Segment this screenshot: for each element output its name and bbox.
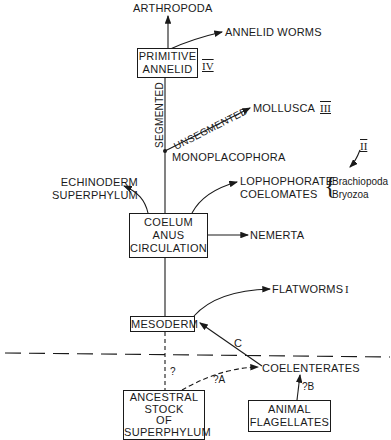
node-ancestral-stock: ANCESTRAL STOCK OF SUPERPHYLUM — [123, 390, 205, 440]
echinoderm-line-1: ECHINODERM — [52, 176, 138, 189]
node-coelenterates: COELENTERATES — [262, 362, 360, 375]
node-monoplacophora: MONOPLACOPHORA — [172, 151, 285, 164]
mesoderm-label: MESODERM — [131, 318, 194, 331]
node-mesoderm: MESODERM — [130, 316, 195, 332]
member-bryozoa: Bryozoa — [332, 188, 388, 201]
node-echinoderm-superphylum: ECHINODERM SUPERPHYLUM — [52, 176, 138, 202]
node-animal-flagellates: ANIMAL FLAGELLATES — [248, 400, 331, 432]
ancestral-line-3: OF — [124, 415, 204, 427]
group-numeral-i: I — [345, 283, 349, 295]
ancestral-line-4: SUPERPHYLUM — [124, 427, 204, 439]
node-mollusca: MOLLUSCA — [253, 102, 315, 115]
primitive-annelid-line-1: PRIMITIVE — [138, 50, 197, 63]
echinoderm-line-2: SUPERPHYLUM — [52, 189, 138, 202]
edge-label-segmented: SEGMENTED — [154, 82, 165, 148]
ancestral-line-1: ANCESTRAL — [124, 392, 204, 404]
node-coelum-anus-circulation: COELUM ANUS CIRCULATION — [129, 213, 208, 258]
node-primitive-annelid: PRIMITIVE ANNELID — [137, 48, 198, 78]
flagellates-line-2: FLAGELLATES — [249, 416, 330, 429]
lophophorate-members: Brachiopoda Bryozoa — [332, 175, 388, 201]
edge-label-question-b: ?B — [302, 380, 314, 393]
node-flatworms: FLATWORMS — [272, 283, 343, 296]
edge-label-question-a: ?A — [213, 373, 225, 386]
flagellates-line-1: ANIMAL — [249, 403, 330, 416]
edge-label-question-ancestral: ? — [170, 365, 176, 378]
monoplacophora-node-dot — [163, 149, 167, 153]
coelum-line-2: ANUS — [130, 229, 207, 242]
group-numeral-iii: III — [320, 102, 331, 114]
coelum-line-3: CIRCULATION — [130, 242, 207, 255]
edge-label-c: C — [234, 337, 242, 350]
primitive-annelid-line-2: ANNELID — [138, 63, 197, 76]
lophophorate-line-2: COELOMATES — [240, 188, 333, 201]
node-annelid-worms: ANNELID WORMS — [225, 26, 322, 39]
node-nemerta: NEMERTA — [250, 229, 304, 242]
node-arthropoda: ARTHROPODA — [133, 2, 212, 15]
group-numeral-iv: IV — [202, 60, 214, 72]
group-numeral-ii: II — [360, 140, 367, 152]
lophophorate-line-1: LOPHOPHORATE — [240, 175, 333, 188]
member-brachiopoda: Brachiopoda — [332, 175, 388, 188]
node-lophophorate-coelomates: LOPHOPHORATE COELOMATES — [240, 175, 333, 201]
coelum-line-1: COELUM — [130, 216, 207, 229]
